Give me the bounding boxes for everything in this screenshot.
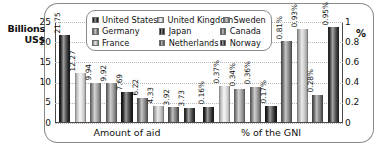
bar-fill: [75, 73, 86, 123]
right-tick-3: 0.4: [345, 78, 378, 87]
left-tick-2: 15: [15, 58, 51, 67]
legend-swatch-icon: [220, 28, 227, 35]
chart-legend: United StatesUnited KingdomSwedenGermany…: [86, 10, 272, 51]
bar-value-label: 21.75: [53, 12, 60, 33]
left-tick-1: 20: [15, 38, 51, 47]
bar-amount-of-aid-france: 4.33: [153, 106, 164, 123]
bar-value-label: 3.73: [178, 89, 185, 105]
bar-value-label: 4.33: [147, 87, 154, 103]
legend-item-label: Canada: [230, 27, 261, 35]
bar-value-label: 7.69: [116, 73, 123, 89]
bar-amount-of-aid-sweden: 9.94: [90, 83, 101, 123]
bar-value-label: 0.28%: [307, 69, 314, 92]
legend-item-label: Japan: [169, 27, 192, 35]
bar--of-the-gni-united-kingdom: 0.37%: [219, 86, 230, 123]
bar-amount-of-aid-united-kingdom: 12.27: [75, 73, 86, 123]
bar-value-label: 0.95%: [322, 2, 329, 25]
left-axis-line: [55, 22, 56, 123]
legend-item-france[interactable]: France: [92, 39, 159, 47]
bar-fill: [121, 92, 132, 123]
legend-swatch-icon: [92, 40, 99, 47]
bar-fill: [234, 89, 245, 123]
legend-item-canada[interactable]: Canada: [220, 27, 266, 35]
bar--of-the-gni-united-states: 0.16%: [203, 107, 214, 123]
legend-item-japan[interactable]: Japan: [159, 27, 220, 35]
legend-item-norway[interactable]: Norway: [220, 39, 266, 47]
bar-amount-of-aid-netherlands: 3.92: [168, 107, 179, 123]
bar-fill: [203, 107, 214, 123]
bar-value-label: 3.92: [163, 89, 170, 105]
legend-swatch-icon: [92, 28, 99, 35]
x-axis-line: [55, 122, 343, 123]
bar-fill: [328, 27, 339, 123]
chart-root: Billions US$ % 2520151050 10.80.60.40.20…: [0, 0, 378, 146]
left-tick-4: 5: [15, 98, 51, 107]
legend-item-united-kingdom[interactable]: United Kingdom: [157, 16, 223, 24]
right-tick-0: 1: [345, 18, 378, 27]
legend-swatch-icon: [223, 17, 230, 24]
right-axis-line: [342, 22, 343, 123]
left-axis-ticks: 2520151050: [13, 22, 51, 123]
bar-fill: [184, 108, 195, 123]
legend-item-united-states[interactable]: United States: [92, 16, 157, 24]
legend-item-label: France: [102, 39, 129, 47]
bar-fill: [312, 95, 323, 123]
bar-amount-of-aid-japan: 7.69: [121, 92, 132, 123]
bar-value-label: 0.34%: [229, 63, 236, 86]
bar-value-label: 0.81%: [275, 16, 282, 39]
legend-item-label: Sweden: [233, 16, 265, 24]
bar-value-label: 0.17%: [260, 80, 267, 103]
legend-item-label: Netherlands: [169, 39, 219, 47]
legend-swatch-icon: [92, 17, 99, 24]
bar-value-label: 0.93%: [291, 4, 298, 27]
left-tick-0: 25: [15, 18, 51, 27]
bar-fill: [265, 106, 276, 123]
bar--of-the-gni-sweden: 0.34%: [234, 89, 245, 123]
bar-fill: [90, 83, 101, 123]
bar-value-label: 6.22: [131, 79, 138, 95]
bar--of-the-gni-japan: 0.17%: [265, 106, 276, 123]
bar--of-the-gni-canada: 0.81%: [281, 41, 292, 123]
bar-fill: [153, 106, 164, 123]
legend-swatch-icon: [159, 28, 166, 35]
bar-value-label: 0.37%: [213, 60, 220, 83]
bar-value-label: 9.92: [100, 64, 107, 80]
legend-item-germany[interactable]: Germany: [92, 27, 159, 35]
bar--of-the-gni-norway: 0.95%: [328, 27, 339, 123]
right-axis-ticks: 10.80.60.40.20: [345, 22, 378, 123]
right-tick-5: 0: [345, 119, 378, 128]
legend-item-sweden[interactable]: Sweden: [223, 16, 266, 24]
bar-value-label: 12.27: [69, 50, 76, 71]
right-tick-1: 0.8: [345, 38, 378, 47]
legend-item-netherlands[interactable]: Netherlands: [159, 39, 220, 47]
bar--of-the-gni-netherlands: 0.28%: [312, 95, 323, 123]
bar-fill: [59, 35, 70, 123]
legend-swatch-icon: [157, 17, 164, 24]
right-tick-4: 0.2: [345, 98, 378, 107]
bar-value-label: 0.16%: [197, 81, 204, 104]
right-tick-2: 0.6: [345, 58, 378, 67]
bar-amount-of-aid-norway: 3.73: [184, 108, 195, 123]
legend-item-label: Norway: [230, 39, 261, 47]
legend-row-1: GermanyJapanCanada: [92, 26, 266, 38]
legend-item-label: United States: [102, 16, 157, 24]
bar-value-label: 9.94: [85, 64, 92, 80]
legend-swatch-icon: [220, 40, 227, 47]
bar-fill: [168, 107, 179, 123]
left-tick-5: 0: [15, 119, 51, 128]
group-caption-percent-of-gni: % of the GNI: [199, 127, 343, 138]
group-caption-amount-of-aid: Amount of aid: [55, 127, 199, 138]
bar-fill: [281, 41, 292, 123]
legend-row-2: FranceNetherlandsNorway: [92, 37, 266, 49]
gridline-5: [55, 123, 343, 124]
legend-row-0: United StatesUnited KingdomSweden: [92, 14, 266, 26]
bar-value-label: 0.36%: [244, 61, 251, 84]
legend-item-label: Germany: [102, 27, 140, 35]
legend-swatch-icon: [159, 40, 166, 47]
bar-amount-of-aid-united-states: 21.75: [59, 35, 70, 123]
bar-fill: [219, 86, 230, 123]
left-tick-3: 10: [15, 78, 51, 87]
